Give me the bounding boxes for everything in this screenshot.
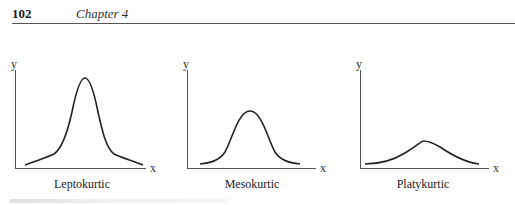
mesokurtic-curve: [200, 111, 300, 164]
x-axis-label: x: [150, 161, 156, 175]
leptokurtic-curve: [25, 78, 143, 165]
x-axis-label: x: [320, 161, 326, 175]
panel-mesokurtic: y x: [183, 57, 326, 175]
x-axis-label: x: [493, 161, 499, 175]
caption-mesokurtic: Mesokurtic: [192, 177, 312, 192]
y-axis-label: y: [183, 57, 189, 71]
y-axis-label: y: [11, 57, 17, 71]
panel-leptokurtic: y x: [11, 57, 156, 175]
caption-leptokurtic: Leptokurtic: [22, 177, 142, 192]
caption-platykurtic: Platykurtic: [363, 177, 483, 192]
y-axis-label: y: [356, 57, 362, 71]
kurtosis-figure: y x y x y x: [0, 0, 515, 205]
cutoff-text-fragment: [10, 199, 230, 203]
panel-platykurtic: y x: [356, 57, 499, 175]
platykurtic-curve: [365, 141, 479, 164]
